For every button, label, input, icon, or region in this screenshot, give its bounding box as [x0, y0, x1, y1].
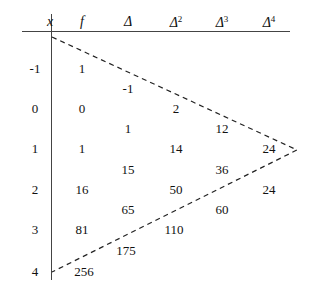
- f-value-cell: 81: [76, 223, 89, 236]
- delta2-value-cell: 14: [170, 142, 183, 155]
- difference-table-figure: xfΔΔ2Δ3Δ4-1012341011681256-1115651752145…: [0, 0, 311, 294]
- delta3-value-cell: 12: [216, 122, 229, 135]
- delta2-value-cell: 110: [164, 223, 183, 236]
- f-value-cell: 256: [74, 265, 94, 278]
- column-header-f: f: [80, 15, 84, 28]
- f-value-cell: 1: [79, 142, 86, 155]
- delta3-value-cell: 60: [216, 203, 229, 216]
- column-header-d1: Δ: [124, 15, 132, 28]
- column-header-d2: Δ2: [170, 13, 183, 30]
- column-header-exponent-d4: 4: [271, 14, 276, 24]
- delta1-value-cell: 65: [122, 203, 135, 216]
- x-value-cell: 3: [32, 223, 39, 236]
- f-value-cell: 0: [79, 102, 86, 115]
- x-value-cell: -1: [30, 62, 41, 75]
- x-value-cell: 1: [32, 142, 39, 155]
- delta2-value-cell: 50: [170, 183, 183, 196]
- delta2-value-cell: 2: [173, 102, 180, 115]
- f-value-cell: 1: [79, 62, 86, 75]
- delta4-value-cell: 24: [263, 183, 276, 196]
- delta4-value-cell: 24: [263, 142, 276, 155]
- column-header-exponent-d2: 2: [178, 14, 183, 24]
- f-value-cell: 16: [76, 183, 89, 196]
- x-value-cell: 0: [32, 102, 39, 115]
- x-value-cell: 2: [32, 183, 39, 196]
- delta1-value-cell: 1: [125, 122, 132, 135]
- x-value-cell: 4: [32, 265, 39, 278]
- delta1-value-cell: 175: [116, 244, 136, 257]
- column-header-d3: Δ3: [216, 13, 229, 30]
- delta3-value-cell: 36: [216, 163, 229, 176]
- column-header-d4: Δ4: [263, 13, 276, 30]
- column-header-exponent-d3: 3: [224, 14, 229, 24]
- delta1-value-cell: 15: [122, 163, 135, 176]
- delta1-value-cell: -1: [123, 82, 134, 95]
- column-header-x: x: [47, 15, 53, 28]
